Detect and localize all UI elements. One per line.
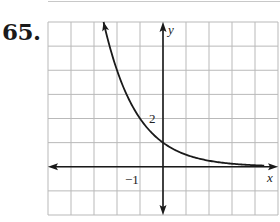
y-tick-label-2: 2 — [149, 111, 156, 126]
x-axis-label: x — [266, 170, 273, 185]
function-curve — [104, 22, 265, 166]
y-axis-label: y — [166, 22, 174, 37]
x-tick-label-neg1: −1 — [125, 172, 139, 187]
graph: y x 2 −1 — [0, 0, 280, 222]
